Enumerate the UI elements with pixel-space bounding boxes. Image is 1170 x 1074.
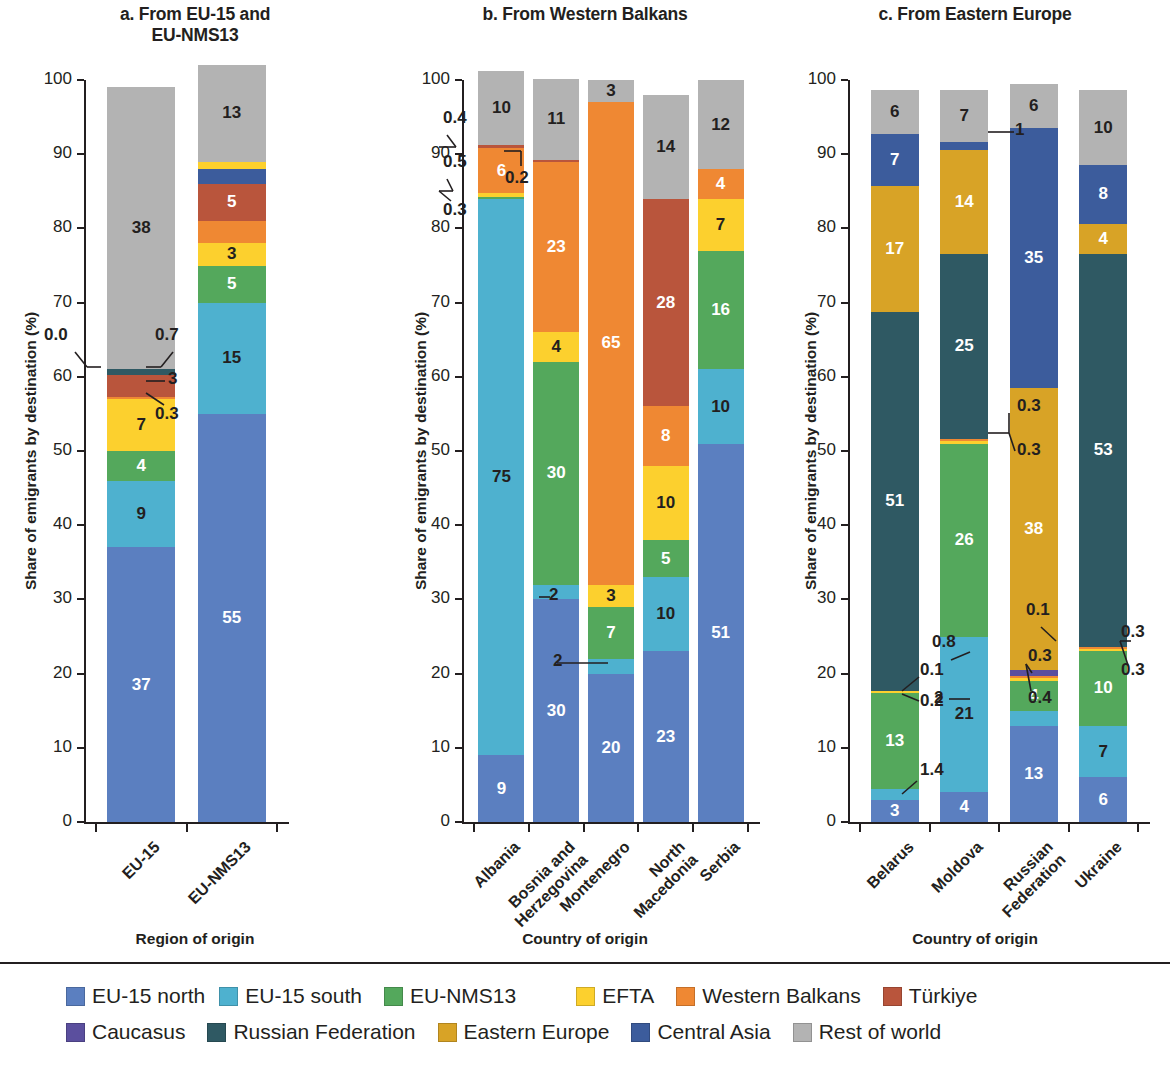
y-tick-b-10 — [455, 747, 462, 749]
segment-value: 5 — [643, 550, 689, 567]
bar-segment: 28 — [643, 199, 689, 407]
panel-title-c: c. From Eastern Europe — [780, 4, 1170, 25]
segment-value: 53 — [1079, 441, 1127, 458]
bar-segment: 14 — [940, 150, 988, 254]
legend-label: Russian Federation — [233, 1020, 415, 1044]
y-tick-label-b-100: 100 — [396, 69, 450, 89]
bar-segment — [940, 142, 988, 149]
segment-value: 5 — [198, 275, 266, 292]
x-tick-c-1 — [929, 824, 931, 832]
segment-value: 7 — [698, 216, 744, 233]
leader-b-3 — [438, 190, 452, 202]
y-tick-a-60 — [77, 376, 84, 378]
legend-swatch-western-balkans — [676, 987, 695, 1006]
legend-item-western-balkans[interactable]: Western Balkans — [676, 984, 860, 1008]
bar-segment: 23 — [643, 651, 689, 822]
x-axis-caption-b: Country of origin — [390, 930, 780, 948]
legend-item-eu-15-south[interactable]: EU-15 south — [219, 984, 362, 1008]
x-tick-a-1 — [186, 824, 188, 832]
x-tick-b-2 — [583, 824, 585, 832]
segment-value: 4 — [107, 457, 175, 474]
x-tick-b-3 — [637, 824, 639, 832]
chart-panels: a. From EU-15 andEU-NMS13Share of emigra… — [0, 0, 1170, 960]
y-tick-label-c-70: 70 — [782, 292, 836, 312]
bar-segment — [1010, 711, 1058, 726]
x-tick-c-end — [1137, 824, 1139, 832]
legend-item-eastern-europe[interactable]: Eastern Europe — [438, 1020, 610, 1044]
callout-c-moldova-efta: 0.3 — [1017, 396, 1041, 416]
legend-item-eu-15-north[interactable]: EU-15 north — [66, 984, 205, 1008]
segment-value: 16 — [698, 301, 744, 318]
legend-row-2: CaucasusRussian FederationEastern Europe… — [0, 1014, 1170, 1050]
segment-value: 21 — [940, 705, 988, 722]
y-tick-c-20 — [841, 673, 848, 675]
y-tick-a-30 — [77, 598, 84, 600]
y-tick-label-c-50: 50 — [782, 440, 836, 460]
leader-b-5 — [538, 596, 551, 598]
callout-b-albania-efta: 0.5 — [443, 152, 467, 172]
bar-segment: 13 — [871, 693, 919, 789]
segment-value: 30 — [533, 464, 579, 481]
callout-c-moldova-casia: 1 — [1015, 120, 1024, 140]
legend-label: Western Balkans — [702, 984, 860, 1008]
bar-segment: 8 — [643, 406, 689, 465]
legend-swatch-eastern-europe — [438, 1023, 457, 1042]
x-tick-b-1 — [528, 824, 530, 832]
legend-item-central-asia[interactable]: Central Asia — [631, 1020, 770, 1044]
legend-item-eu-nms13[interactable]: EU-NMS13 — [384, 984, 516, 1008]
leader-c-3 — [901, 780, 918, 795]
legend-item-caucasus[interactable]: Caucasus — [66, 1020, 185, 1044]
bar-segment — [588, 659, 634, 674]
y-tick-label-b-0: 0 — [396, 811, 450, 831]
leader-c-11 — [1040, 626, 1057, 642]
legend-row-1: EU-15 northEU-15 southEU-NMS13EFTAWester… — [0, 978, 1170, 1014]
legend-item-rest-of-world[interactable]: Rest of world — [793, 1020, 942, 1044]
segment-value: 51 — [871, 492, 919, 509]
bar-segment — [107, 375, 175, 397]
bar-segment — [478, 193, 524, 197]
x-tick-b-0 — [473, 824, 475, 832]
y-tick-label-c-90: 90 — [782, 143, 836, 163]
callout-c-russia-caucasus: 0.8 — [932, 632, 956, 652]
y-tick-label-a-20: 20 — [18, 663, 72, 683]
callout-c-russia-eu15s: 2 — [934, 688, 943, 708]
leader-b-1b — [438, 146, 457, 148]
segment-value: 23 — [643, 728, 689, 745]
panel-a: a. From EU-15 andEU-NMS13Share of emigra… — [0, 0, 390, 960]
legend-item-efta[interactable]: EFTA — [576, 984, 654, 1008]
y-tick-b-30 — [455, 598, 462, 600]
bar-moldova: 4212625147 — [940, 80, 988, 822]
x-tick-b-4 — [692, 824, 694, 832]
legend-label: Türkiye — [909, 984, 978, 1008]
y-tick-b-20 — [455, 673, 462, 675]
segment-value: 75 — [478, 468, 524, 485]
legend-item-russian-federation[interactable]: Russian Federation — [207, 1020, 415, 1044]
bar-segment: 23 — [533, 162, 579, 333]
bar-segment: 7 — [940, 90, 988, 142]
legend-label: EU-15 south — [245, 984, 362, 1008]
segment-value: 7 — [940, 107, 988, 124]
leader-c-10 — [1025, 663, 1032, 692]
legend-item-t-rkiye[interactable]: Türkiye — [883, 984, 978, 1008]
y-tick-label-a-100: 100 — [18, 69, 72, 89]
segment-value: 9 — [478, 780, 524, 797]
callout-b-bosnia-eu15s: 2 — [549, 585, 558, 605]
x-tick-c-2 — [998, 824, 1000, 832]
segment-value: 6 — [871, 103, 919, 120]
segment-value: 3 — [588, 587, 634, 604]
segment-value: 4 — [1079, 230, 1127, 247]
x-tick-b-end — [747, 824, 749, 832]
segment-value: 55 — [198, 609, 266, 626]
y-tick-b-70 — [455, 302, 462, 304]
segment-value: 15 — [198, 349, 266, 366]
legend-swatch-central-asia — [631, 1023, 650, 1042]
y-tick-a-0 — [77, 821, 84, 823]
y-tick-label-b-80: 80 — [396, 217, 450, 237]
leader-c-7 — [950, 651, 971, 661]
bar-segment: 10 — [1079, 90, 1127, 164]
legend-swatch-caucasus — [66, 1023, 85, 1042]
segment-value: 35 — [1010, 249, 1058, 266]
legend-swatch-eu-15-south — [219, 987, 238, 1006]
bar-segment: 3 — [198, 243, 266, 265]
bar-montenegro: 2073653 — [588, 80, 634, 822]
